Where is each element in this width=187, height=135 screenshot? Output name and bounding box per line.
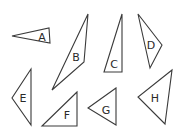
triangle-f: F (42, 92, 77, 126)
triangle-c: C (104, 14, 122, 72)
triangle-g-label: G (102, 104, 111, 117)
triangle-h: H (138, 70, 172, 124)
triangle-d: D (138, 14, 162, 68)
triangle-f-label: F (64, 109, 70, 122)
triangle-a: A (12, 28, 50, 44)
triangle-d-label: D (147, 39, 155, 52)
triangle-h-label: H (151, 92, 159, 105)
triangle-g: G (88, 88, 116, 125)
triangle-f-shape (42, 92, 77, 126)
triangle-b-shape (52, 14, 88, 90)
triangles-diagram: A B C D E F G H (0, 0, 187, 135)
triangle-b-label: B (72, 51, 80, 64)
triangle-e-label: E (20, 92, 27, 105)
triangle-c-label: C (110, 58, 118, 71)
triangle-b: B (52, 14, 88, 90)
triangle-a-label: A (38, 31, 46, 44)
triangle-e: E (12, 69, 31, 125)
